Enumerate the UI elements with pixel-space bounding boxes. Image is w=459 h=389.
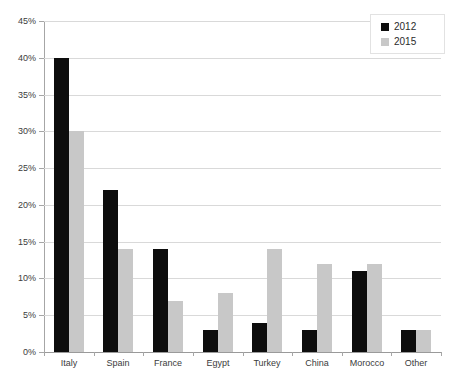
bar-other-2015 xyxy=(416,330,431,352)
bar-group-spain xyxy=(103,21,133,352)
x-tick-mark xyxy=(441,352,442,356)
x-tick-mark xyxy=(94,352,95,356)
bar-group-china xyxy=(302,21,332,352)
bar-italy-2012 xyxy=(54,58,69,352)
y-axis-tick-label: 30% xyxy=(0,127,36,136)
bar-china-2012 xyxy=(302,330,317,352)
y-axis-tick-label: 45% xyxy=(0,17,36,26)
x-axis-label-italy: Italy xyxy=(61,359,78,368)
bar-group-turkey xyxy=(252,21,282,352)
bar-group-other xyxy=(401,21,431,352)
bar-egypt-2012 xyxy=(203,330,218,352)
bar-morocco-2015 xyxy=(367,264,382,352)
y-axis-tick-label: 0% xyxy=(0,348,36,357)
x-axis-label-china: China xyxy=(305,359,329,368)
x-axis-label-spain: Spain xyxy=(106,359,129,368)
chart-legend: 2012 2015 xyxy=(370,14,445,54)
bar-china-2015 xyxy=(317,264,332,352)
bar-group-egypt xyxy=(203,21,233,352)
x-axis-label-egypt: Egypt xyxy=(206,359,229,368)
bar-group-morocco xyxy=(352,21,382,352)
bar-spain-2012 xyxy=(103,190,118,352)
y-axis-tick-label: 15% xyxy=(0,238,36,247)
x-tick-mark xyxy=(44,352,45,356)
bar-other-2012 xyxy=(401,330,416,352)
bar-france-2012 xyxy=(153,249,168,352)
x-tick-mark xyxy=(243,352,244,356)
y-axis-tick-label: 35% xyxy=(0,91,36,100)
legend-item-2015: 2015 xyxy=(371,34,444,49)
y-axis-tick-label: 5% xyxy=(0,311,36,320)
legend-label-2015: 2015 xyxy=(394,37,416,47)
x-axis-label-other: Other xyxy=(405,359,428,368)
x-tick-mark xyxy=(143,352,144,356)
bar-france-2015 xyxy=(168,301,183,352)
bar-turkey-2012 xyxy=(252,323,267,352)
y-axis-tick-label: 25% xyxy=(0,164,36,173)
x-axis-label-france: France xyxy=(154,359,182,368)
bar-chart: 0%5%10%15%20%25%30%35%40%45% ItalySpainF… xyxy=(0,0,459,389)
bar-italy-2015 xyxy=(69,131,84,352)
x-tick-mark xyxy=(193,352,194,356)
x-tick-mark xyxy=(391,352,392,356)
bar-morocco-2012 xyxy=(352,271,367,352)
legend-item-2012: 2012 xyxy=(371,19,444,34)
y-axis-tick-label: 20% xyxy=(0,201,36,210)
bar-group-france xyxy=(153,21,183,352)
legend-label-2012: 2012 xyxy=(394,22,416,32)
bar-spain-2015 xyxy=(118,249,133,352)
legend-swatch-2012-icon xyxy=(381,23,389,31)
bar-turkey-2015 xyxy=(267,249,282,352)
x-tick-mark xyxy=(292,352,293,356)
x-axis-label-turkey: Turkey xyxy=(253,359,280,368)
x-tick-mark xyxy=(342,352,343,356)
plot-area xyxy=(44,21,441,352)
legend-swatch-2015-icon xyxy=(381,38,389,46)
y-axis-tick-label: 40% xyxy=(0,54,36,63)
x-axis-label-morocco: Morocco xyxy=(350,359,385,368)
bar-egypt-2015 xyxy=(218,293,233,352)
y-axis-tick-label: 10% xyxy=(0,274,36,283)
bar-group-italy xyxy=(54,21,84,352)
